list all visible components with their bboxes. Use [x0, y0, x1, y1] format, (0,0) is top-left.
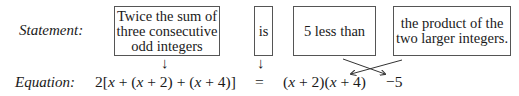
- equation-equals: =: [255, 73, 264, 91]
- equation-product: (x + 2)(x + 4): [283, 73, 366, 91]
- equation-text: 2[x + (x + 2) + (x + 4)]: [95, 73, 236, 90]
- equation-left-side: 2[x + (x + 2) + (x + 4)]: [95, 73, 236, 91]
- equation-minus-five: −5: [386, 73, 403, 91]
